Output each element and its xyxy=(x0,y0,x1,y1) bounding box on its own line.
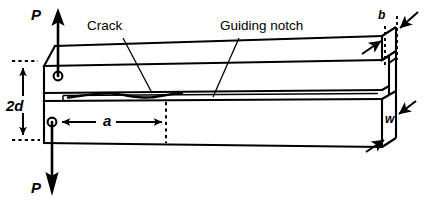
dcb-specimen-figure: P P 2d a b w Crack Guiding notch xyxy=(0,0,431,210)
callout-leaders xyxy=(123,38,239,97)
specimen-drawing xyxy=(0,0,431,210)
label-height-2d: 2d xyxy=(6,98,24,113)
dimension-w xyxy=(366,101,416,152)
label-notch-callout: Guiding notch xyxy=(220,19,303,33)
label-depth-w: w xyxy=(385,113,394,125)
label-thickness-b: b xyxy=(378,9,385,21)
crack-front xyxy=(68,93,182,97)
loading-pins xyxy=(48,72,63,127)
label-load-top: P xyxy=(31,7,41,22)
dimension-a xyxy=(62,102,166,143)
specimen-outline xyxy=(44,36,382,147)
notch-leader xyxy=(213,38,239,97)
label-crack-callout: Crack xyxy=(87,19,122,33)
label-load-bottom: P xyxy=(31,180,41,195)
label-crack-length-a: a xyxy=(103,113,111,128)
load-arrow-bottom xyxy=(45,122,58,196)
